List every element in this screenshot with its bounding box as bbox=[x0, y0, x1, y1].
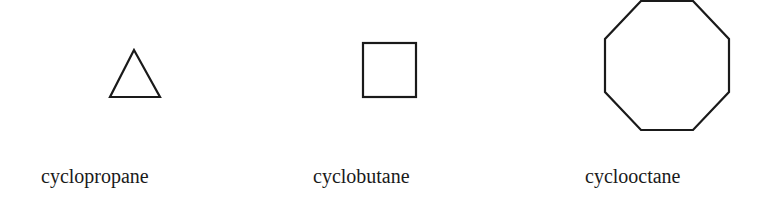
cyclooctane-octagon-icon bbox=[605, 1, 729, 130]
cyclooctane-label: cyclooctane bbox=[585, 164, 681, 188]
cyclobutane-square-icon bbox=[363, 43, 416, 97]
cyclopropane-triangle-icon bbox=[110, 50, 160, 97]
cycloalkane-diagram: cyclopropane cyclobutane cyclooctane bbox=[0, 0, 764, 208]
cyclobutane-label: cyclobutane bbox=[313, 164, 410, 188]
cyclopropane-label: cyclopropane bbox=[41, 164, 149, 188]
